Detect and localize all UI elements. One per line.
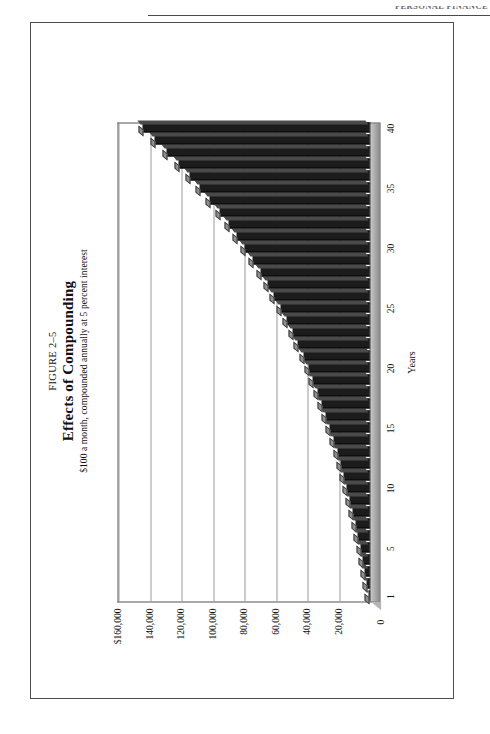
bar <box>273 290 370 299</box>
bar-top-face <box>224 220 229 231</box>
bar-side-face <box>312 384 368 388</box>
bar-top-face <box>362 580 367 591</box>
bar-top-face <box>329 436 334 447</box>
bar-side-face <box>302 360 368 364</box>
x-axis-tick-label: 40 <box>385 123 396 133</box>
bar <box>189 170 370 179</box>
bar <box>325 410 370 419</box>
bar <box>267 278 370 287</box>
bar-top-face <box>282 316 287 327</box>
bar-side-face <box>149 132 368 136</box>
bar <box>357 530 370 539</box>
bar <box>228 218 370 227</box>
y-axis-tick-label: 80,000 <box>238 608 248 634</box>
bar-top-face <box>356 544 361 555</box>
bar <box>142 122 370 131</box>
bar-side-face <box>324 420 368 424</box>
bar-top-face <box>174 160 179 171</box>
x-axis-tick-label: 30 <box>385 243 396 253</box>
bar <box>337 446 370 455</box>
bar-top-face <box>360 568 365 579</box>
bar-side-face <box>268 288 368 292</box>
y-axis-zero-label: 0 <box>375 619 385 624</box>
x-axis-tick-labels: 1510152025303540 <box>385 122 401 602</box>
bar <box>236 230 370 239</box>
bar-top-face <box>263 280 268 291</box>
x-axis-tick-label: 1 <box>385 594 396 599</box>
bar-top-face <box>342 484 347 495</box>
y-axis-tick-label: 20,000 <box>333 608 343 634</box>
bar <box>280 302 370 311</box>
bar-side-face <box>231 228 368 232</box>
bar-top-face <box>256 268 261 279</box>
running-head: PERSONAL FINANCE <box>148 6 490 20</box>
bar-top-face <box>364 592 369 603</box>
bar <box>199 182 370 191</box>
bar-series <box>118 121 370 601</box>
bar-side-face <box>281 312 368 316</box>
figure-title: Effects of Compounding <box>58 23 77 698</box>
bar-side-face <box>275 300 368 304</box>
bar-top-face <box>288 328 293 339</box>
bar-top-face <box>240 244 245 255</box>
bar-side-face <box>239 240 368 244</box>
bar-side-face <box>320 408 368 412</box>
bar-side-face <box>341 480 368 484</box>
y-axis-tick-label: 140,000 <box>144 608 154 639</box>
plot-area <box>117 122 369 602</box>
bar-side-face <box>223 216 368 220</box>
bar <box>333 434 370 443</box>
bar-top-face <box>317 400 322 411</box>
figure-subtitle: $100 a month, compounded annually at 5 p… <box>77 23 90 698</box>
bar-top-face <box>321 412 326 423</box>
bar-top-face <box>205 196 210 207</box>
bar-side-face <box>335 456 368 460</box>
y-axis-tick-label: 40,000 <box>301 608 311 634</box>
bar <box>308 362 370 371</box>
bar <box>292 326 370 335</box>
bar <box>244 242 370 251</box>
bar-side-face <box>331 444 368 448</box>
bar-top-face <box>162 148 167 159</box>
y-axis-tick-label: $160,000 <box>112 608 122 644</box>
bar <box>329 422 370 431</box>
bar-top-face <box>348 508 353 519</box>
running-head-text: PERSONAL FINANCE <box>395 6 488 11</box>
figure-number: FIGURE 2–5 <box>45 23 58 698</box>
x-axis-title: Years <box>405 122 416 602</box>
y-axis-tick-label: 120,000 <box>175 608 185 639</box>
bar <box>260 266 370 275</box>
bar <box>252 254 370 263</box>
bar-side-face <box>204 192 368 196</box>
bar <box>317 386 370 395</box>
bar-top-face <box>299 352 304 363</box>
y-axis-tick-label: 100,000 <box>207 608 217 639</box>
bar-top-face <box>195 184 200 195</box>
bar-side-face <box>214 204 368 208</box>
bar <box>297 338 370 347</box>
bar-side-face <box>254 264 368 268</box>
bar-top-face <box>304 364 309 375</box>
bar-side-face <box>173 156 368 160</box>
bar-side-face <box>297 348 368 352</box>
x-axis-tick-label: 35 <box>385 183 396 193</box>
figure-caption: FIGURE 2–5 Effects of Compounding $100 a… <box>45 23 90 698</box>
bar <box>321 398 370 407</box>
bar <box>343 470 370 479</box>
bar-side-face <box>262 276 368 280</box>
bar <box>219 206 370 215</box>
bar-top-face <box>353 532 358 543</box>
bar-top-face <box>232 232 237 243</box>
bar-side-face <box>247 252 368 256</box>
x-axis-tick-label: 20 <box>385 363 396 373</box>
bar <box>349 494 370 503</box>
bar-top-face <box>358 556 363 567</box>
y-axis-tick-labels: $160,000140,000120,000100,00080,00060,00… <box>117 608 369 684</box>
bar <box>286 314 370 323</box>
running-head-rule <box>148 15 490 16</box>
bar-top-face <box>313 388 318 399</box>
figure-box: FIGURE 2–5 Effects of Compounding $100 a… <box>30 22 454 699</box>
bar-top-face <box>336 460 341 471</box>
rotated-figure-stage: FIGURE 2–5 Effects of Compounding $100 a… <box>31 23 453 698</box>
bar-side-face <box>161 144 368 148</box>
